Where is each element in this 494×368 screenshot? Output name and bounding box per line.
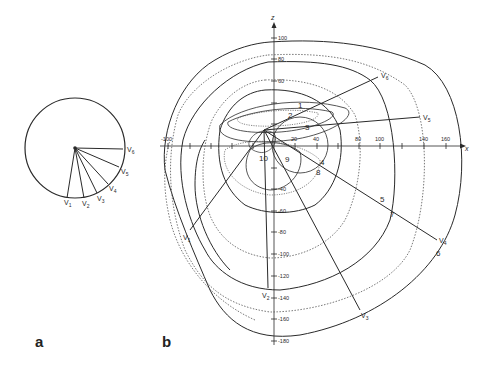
- loop-label: 9: [285, 155, 290, 164]
- loop-label: 1: [298, 101, 303, 110]
- x-tick: 160: [441, 136, 450, 142]
- diagram-canvas: V6 V5 V4 V3 V2 V1: [0, 0, 494, 368]
- x-tick: 80: [355, 136, 361, 142]
- lead-label-a-v4: V4: [109, 185, 117, 194]
- loop-label: 4: [320, 158, 325, 167]
- z-tick: -80: [278, 229, 286, 235]
- lead-label-b-v1: V1: [183, 234, 191, 243]
- z-axis-label: z: [270, 14, 275, 21]
- lead-label-a-v1: V1: [64, 199, 72, 208]
- z-tick: -60: [278, 208, 286, 214]
- lead-label-a-v6: V6: [127, 146, 135, 155]
- panel-a-lead-circle: V6 V5 V4 V3 V2 V1: [25, 98, 135, 209]
- x-axis-label: x: [464, 145, 469, 152]
- loop-number-labels: 1 2 3 4 5 6 7 8 9 10: [259, 101, 441, 258]
- loop-label: 10: [259, 154, 268, 163]
- lead-label-b-v6: V6: [381, 72, 389, 81]
- loop-label: 2: [288, 111, 293, 120]
- x-tick: -100: [161, 136, 172, 142]
- panel-b-vectorcardiogram: x z -100 20 40 80 100 140 160 60 80 100 …: [160, 14, 469, 345]
- figure: V6 V5 V4 V3 V2 V1: [0, 0, 494, 368]
- z-tick: -140: [278, 295, 289, 301]
- z-tick: -180: [278, 338, 289, 344]
- axes: [160, 22, 466, 345]
- loop-label: 3: [305, 123, 310, 132]
- isopotential-loops: [164, 41, 462, 336]
- z-tick: 100: [278, 35, 287, 41]
- lead-label-b-v2: V2: [262, 292, 270, 301]
- z-tick: 60: [278, 78, 284, 84]
- z-tick: -160: [278, 316, 289, 322]
- lead-label-b-v5: V5: [423, 114, 431, 123]
- lead-label-a-v5: V5: [121, 168, 129, 177]
- loop-label: 8: [316, 168, 321, 177]
- lead-label-a-v3: V3: [97, 195, 105, 204]
- panel-label-b: b: [162, 333, 171, 350]
- lead-label-b-v3: V3: [361, 312, 369, 321]
- x-tick: 100: [375, 136, 384, 142]
- z-tick: 80: [278, 56, 284, 62]
- lead-label-a-v2: V2: [82, 200, 90, 209]
- loop-label: 5: [380, 195, 385, 204]
- z-tick: -120: [278, 273, 289, 279]
- loop-label: 6: [436, 249, 441, 258]
- panel-label-a: a: [35, 333, 43, 350]
- loop-label: 7: [390, 210, 395, 219]
- z-tick: -100: [278, 251, 289, 257]
- x-tick: 40: [313, 136, 319, 142]
